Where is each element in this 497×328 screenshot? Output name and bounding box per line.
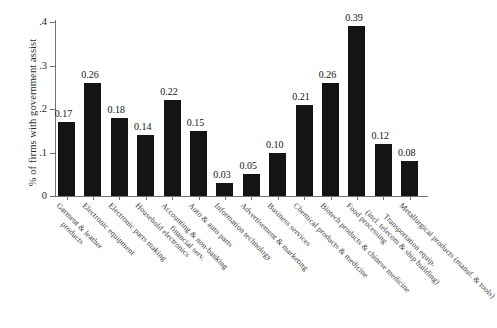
bar-value-label: 0.18 bbox=[99, 105, 133, 115]
x-axis-label-line: financial serv. bbox=[153, 208, 224, 279]
x-axis-label-line: (incl. telecom & ship building) bbox=[364, 208, 443, 287]
bar bbox=[269, 153, 286, 197]
bar-value-label: 0.03 bbox=[205, 170, 239, 180]
x-axis-line bbox=[55, 196, 428, 197]
y-tick-label: .4 bbox=[20, 17, 47, 28]
x-tick-mark bbox=[383, 196, 384, 200]
x-tick-mark bbox=[172, 196, 173, 200]
bar-value-label: 0.08 bbox=[390, 148, 424, 158]
bar bbox=[84, 83, 101, 196]
bar bbox=[216, 183, 233, 196]
y-tick-mark bbox=[50, 196, 56, 197]
bar-value-label: 0.22 bbox=[152, 87, 186, 97]
bar bbox=[137, 135, 154, 196]
bar-value-label: 0.10 bbox=[258, 140, 292, 150]
bar bbox=[243, 174, 260, 196]
y-tick-label: .1 bbox=[20, 148, 47, 159]
bar bbox=[190, 131, 207, 196]
bar-value-label: 0.26 bbox=[311, 70, 345, 80]
bar-value-label: 0.17 bbox=[47, 109, 81, 119]
bar-value-label: 0.39 bbox=[337, 13, 371, 23]
bar-value-label: 0.26 bbox=[73, 70, 107, 80]
x-tick-mark bbox=[251, 196, 252, 200]
x-tick-mark bbox=[199, 196, 200, 200]
x-tick-mark bbox=[146, 196, 147, 200]
x-tick-mark bbox=[304, 196, 305, 200]
bar bbox=[348, 26, 365, 196]
bar-value-label: 0.21 bbox=[284, 92, 318, 102]
y-tick-mark bbox=[50, 153, 56, 154]
y-tick-label: .2 bbox=[20, 104, 47, 115]
x-tick-mark bbox=[119, 196, 120, 200]
bar bbox=[296, 105, 313, 196]
x-tick-mark bbox=[331, 196, 332, 200]
y-tick-mark bbox=[50, 66, 56, 67]
x-tick-mark bbox=[410, 196, 411, 200]
y-tick-label: .3 bbox=[20, 61, 47, 72]
bar-value-label: 0.12 bbox=[363, 131, 397, 141]
bar-value-label: 0.15 bbox=[179, 118, 213, 128]
bar bbox=[58, 122, 75, 196]
bar bbox=[164, 100, 181, 196]
bar bbox=[401, 161, 418, 196]
y-tick-label: 0 bbox=[20, 191, 47, 202]
x-tick-mark bbox=[357, 196, 358, 200]
x-tick-mark bbox=[67, 196, 68, 200]
bar bbox=[322, 83, 339, 196]
y-tick-mark bbox=[50, 22, 56, 23]
bar-value-label: 0.14 bbox=[126, 122, 160, 132]
x-tick-mark bbox=[278, 196, 279, 200]
x-tick-mark bbox=[225, 196, 226, 200]
x-tick-mark bbox=[93, 196, 94, 200]
bar-value-label: 0.05 bbox=[231, 161, 265, 171]
